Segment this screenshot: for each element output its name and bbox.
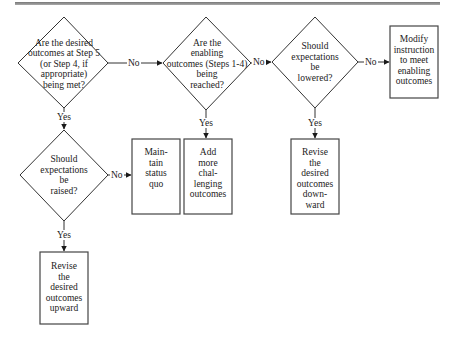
edge-label-d4-a2: No xyxy=(110,170,124,180)
edge-label-d1-d4: Yes xyxy=(56,112,72,122)
decision-d4-text: Should expectations be raised? xyxy=(28,153,100,197)
edge-label-d1-d2: No xyxy=(127,58,141,68)
edge-label-d2-d3: No xyxy=(252,57,266,67)
edge-label-d4-a5: Yes xyxy=(56,230,72,240)
edge-label-d3-a1: No xyxy=(364,57,378,67)
edge-label-d3-a4: Yes xyxy=(307,118,323,128)
action-a4-text: Revise the desired outcomes down- ward xyxy=(291,141,339,213)
action-a2-text: Main- tain status quo xyxy=(132,141,180,213)
action-a5-text: Revise the desired outcomes upward xyxy=(40,255,88,323)
edge-label-d2-a3: Yes xyxy=(198,118,214,128)
action-a1-text: Modify instruction to meet enabling outc… xyxy=(390,28,438,98)
decision-d1-text: Are the desired outcomes at Step 5 (or S… xyxy=(22,37,106,91)
decision-d3-text: Should expectations be lowered? xyxy=(280,40,350,84)
action-a3-text: Add more chal- lenging outcomes xyxy=(184,141,232,213)
decision-d2-text: Are the enabling outcomes (Steps 1-4) be… xyxy=(160,37,254,91)
